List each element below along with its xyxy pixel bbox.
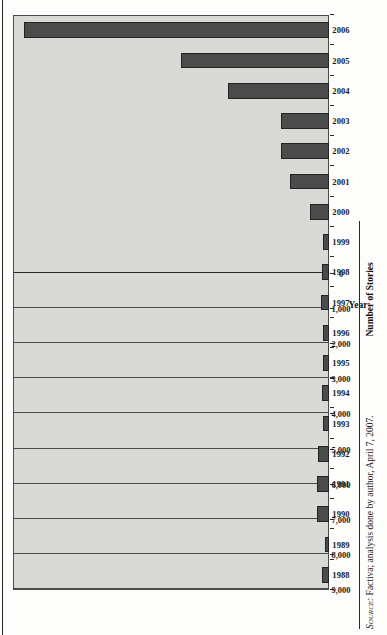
year-label-1996: 1996: [326, 328, 356, 338]
year-tick: [330, 498, 334, 499]
bar-1997: [13, 295, 329, 311]
source-label: Source:: [365, 598, 375, 629]
year-tick: [330, 165, 334, 166]
year-label-2004: 2004: [326, 86, 356, 96]
year-label-2003: 2003: [326, 116, 356, 126]
year-label-1988: 1988: [326, 570, 356, 580]
bar-1995: [13, 355, 329, 371]
value-tick-label-2000: 2,000: [319, 339, 363, 349]
year-label-1994: 1994: [326, 388, 356, 398]
year-label-2001: 2001: [326, 176, 356, 186]
bar-1990: [13, 506, 329, 522]
year-tick: [330, 44, 334, 45]
bar-series: [13, 15, 329, 590]
value-tick-label-7000: 7,000: [319, 515, 363, 525]
year-label-1999: 1999: [326, 237, 356, 247]
source-divider: [359, 221, 360, 629]
year-tick: [330, 75, 334, 76]
bar-1998: [13, 264, 329, 280]
bar-1999: [13, 234, 329, 250]
bar-1989: [13, 537, 329, 553]
bar-2004: [13, 83, 329, 99]
source-note: Source: Factiva; analysis done by author…: [359, 199, 375, 629]
year-label-2002: 2002: [326, 146, 356, 156]
value-tick-label-9000: 9,000: [319, 585, 363, 595]
bar-1988: [13, 567, 329, 583]
year-tick: [330, 317, 334, 318]
bar-rect-2003: [281, 113, 329, 129]
year-tick: [330, 438, 334, 439]
year-label-2006: 2006: [326, 25, 356, 35]
year-tick: [330, 105, 334, 106]
bar-1991: [13, 476, 329, 492]
value-tick-label-4000: 4,000: [319, 409, 363, 419]
bar-2003: [13, 113, 329, 129]
bar-1994: [13, 385, 329, 401]
bar-1996: [13, 325, 329, 341]
bar-2000: [13, 204, 329, 220]
value-tick-label-8000: 8,000: [319, 550, 363, 560]
year-tick: [330, 286, 334, 287]
year-label-1993: 1993: [326, 419, 356, 429]
year-tick: [330, 468, 334, 469]
bar-rect-2001: [290, 174, 329, 190]
year-tick: [330, 226, 334, 227]
year-tick: [330, 196, 334, 197]
year-label-2000: 2000: [326, 207, 356, 217]
source-note-text: Source: Factiva; analysis done by author…: [365, 199, 375, 629]
year-tick: [330, 14, 334, 15]
bar-2002: [13, 143, 329, 159]
bar-1993: [13, 416, 329, 432]
rotated-chart-wrapper: 1988198919901991199219931994199519961997…: [0, 0, 387, 635]
year-tick: [330, 528, 334, 529]
bar-chart: 1988198919901991199219931994199519961997…: [0, 0, 387, 635]
bar-1992: [13, 446, 329, 462]
bar-rect-2006: [24, 22, 329, 38]
figure-page: 1988198919901991199219931994199519961997…: [0, 0, 387, 635]
bar-2001: [13, 174, 329, 190]
year-label-1989: 1989: [326, 540, 356, 550]
value-tick-label-5000: 5,000: [319, 445, 363, 455]
bar-rect-2004: [228, 83, 329, 99]
year-tick: [330, 135, 334, 136]
bar-rect-2005: [181, 53, 329, 69]
year-label-1995: 1995: [326, 358, 356, 368]
value-tick-label-0: 0: [319, 269, 363, 279]
value-tick-label-3000: 3,000: [319, 374, 363, 384]
bar-2006: [13, 22, 329, 38]
year-tick: [330, 256, 334, 257]
bar-rect-2002: [281, 143, 329, 159]
source-detail: Factiva; analysis done by author, April …: [365, 415, 375, 597]
bar-2005: [13, 53, 329, 69]
year-label-2005: 2005: [326, 55, 356, 65]
value-tick-label-6000: 6,000: [319, 480, 363, 490]
